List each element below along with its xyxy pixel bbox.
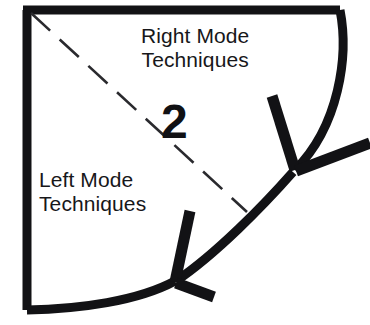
label-left-mode-line2: Techniques xyxy=(39,192,146,216)
chapter-number: 2 xyxy=(161,98,188,146)
arrow-lower-barb-down xyxy=(176,283,214,297)
frame-bottom-curved-edge xyxy=(27,281,175,310)
arrow-upper-barb-left xyxy=(272,96,295,170)
label-right-mode-line2: Techniques xyxy=(141,48,249,72)
frame-right-curved-edge xyxy=(295,10,343,170)
label-right-mode-line1: Right Mode xyxy=(141,24,249,48)
label-left-mode-line1: Left Mode xyxy=(39,168,146,192)
label-right-mode-techniques: Right Mode Techniques xyxy=(141,24,249,73)
frame-middle-arc xyxy=(176,172,293,281)
chapter-opener-diagram: Right Mode Techniques Left Mode Techniqu… xyxy=(0,0,370,325)
label-left-mode-techniques: Left Mode Techniques xyxy=(39,168,146,217)
